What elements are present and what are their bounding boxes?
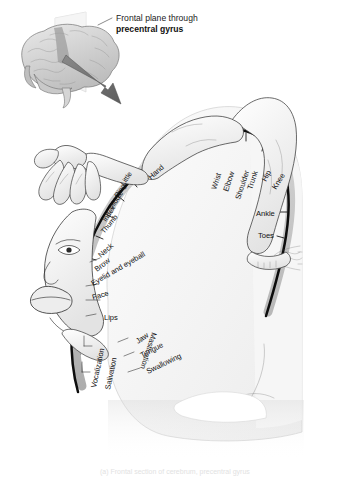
lateral-brain-inset <box>22 12 121 108</box>
figure-canvas: Frontal plane through precentral gyrus <box>0 0 350 479</box>
callout-line-1: Frontal plane through <box>116 13 198 23</box>
callout-line-2: precentral gyrus <box>116 24 184 34</box>
callout-leader-line <box>98 18 112 25</box>
figure-caption: (a) Frontal section of cerebrum, precent… <box>100 468 250 476</box>
label-lips: Lips <box>104 313 118 322</box>
anatomical-illustration: Frontal plane through precentral gyrus <box>0 0 350 479</box>
label-toes: Toes <box>258 231 274 240</box>
label-ankle: Ankle <box>256 209 275 218</box>
